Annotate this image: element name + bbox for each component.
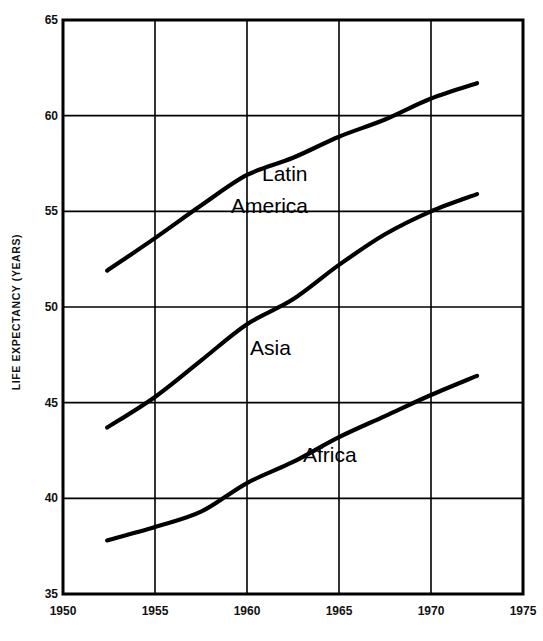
y-tick-label-60: 60 <box>14 109 58 123</box>
x-tick-label-1965: 1965 <box>309 604 369 618</box>
y-axis-tick-labels: 35404550556065 <box>0 0 58 641</box>
x-tick-label-1960: 1960 <box>217 604 277 618</box>
series-label-latin: Latin <box>262 162 308 186</box>
plot-area <box>0 0 543 641</box>
x-tick-label-1970: 1970 <box>401 604 461 618</box>
series-line-asia <box>107 194 477 427</box>
y-tick-label-40: 40 <box>14 491 58 505</box>
y-tick-label-65: 65 <box>14 13 58 27</box>
x-tick-label-1955: 1955 <box>125 604 185 618</box>
life-expectancy-chart: LIFE EXPECTANCY (YEARS) 35404550556065 1… <box>0 0 543 641</box>
series-label-america: America <box>231 194 308 218</box>
series-line-africa <box>107 376 477 541</box>
x-tick-label-1950: 1950 <box>33 604 93 618</box>
data-series-lines <box>107 83 477 540</box>
y-tick-label-50: 50 <box>14 300 58 314</box>
grid-lines <box>63 20 523 594</box>
y-tick-label-35: 35 <box>14 587 58 601</box>
y-tick-label-55: 55 <box>14 204 58 218</box>
x-tick-label-1975: 1975 <box>493 604 543 618</box>
series-label-africa: Africa <box>303 443 357 467</box>
series-label-asia: Asia <box>250 336 291 360</box>
y-tick-label-45: 45 <box>14 396 58 410</box>
